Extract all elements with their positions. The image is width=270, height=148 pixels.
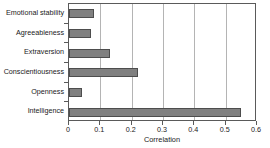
bar-row bbox=[69, 102, 255, 122]
bar-row bbox=[69, 43, 255, 63]
x-axis-ticklabel: 0.6 bbox=[244, 125, 268, 134]
y-axis-label: Conscientiousness bbox=[4, 68, 64, 76]
x-axis-ticklabel: 0.2 bbox=[119, 125, 143, 134]
bar bbox=[69, 49, 110, 58]
y-axis-label: Intelligence bbox=[28, 107, 64, 115]
bar-chart-figure: Emotional stabilityAgreeablenessExtraver… bbox=[0, 0, 270, 148]
bar bbox=[69, 29, 91, 38]
bar-row bbox=[69, 83, 255, 103]
bar bbox=[69, 108, 241, 117]
x-axis-title: Correlation bbox=[68, 135, 256, 144]
bar-row bbox=[69, 63, 255, 83]
y-axis-tick bbox=[64, 42, 68, 43]
y-axis-tick bbox=[64, 101, 68, 102]
y-axis-label: Openness bbox=[31, 88, 64, 96]
x-axis-ticklabel: 0.3 bbox=[150, 125, 174, 134]
bar bbox=[69, 88, 82, 97]
plot-area bbox=[68, 3, 256, 121]
bar bbox=[69, 68, 138, 77]
bar-row bbox=[69, 4, 255, 24]
x-axis-ticklabel: 0.4 bbox=[181, 125, 205, 134]
y-axis-tick bbox=[64, 62, 68, 63]
x-axis-ticklabel: 0.1 bbox=[87, 125, 111, 134]
bar bbox=[69, 9, 94, 18]
y-axis-label: Emotional stability bbox=[6, 9, 64, 17]
bar-row bbox=[69, 24, 255, 44]
y-axis-label: Extraversion bbox=[24, 48, 64, 56]
x-axis-ticklabel: 0.5 bbox=[213, 125, 237, 134]
y-axis-label: Agreeableness bbox=[16, 29, 64, 37]
y-axis-tick bbox=[64, 23, 68, 24]
x-axis-ticklabel: 0 bbox=[56, 125, 80, 134]
y-axis-tick bbox=[64, 82, 68, 83]
